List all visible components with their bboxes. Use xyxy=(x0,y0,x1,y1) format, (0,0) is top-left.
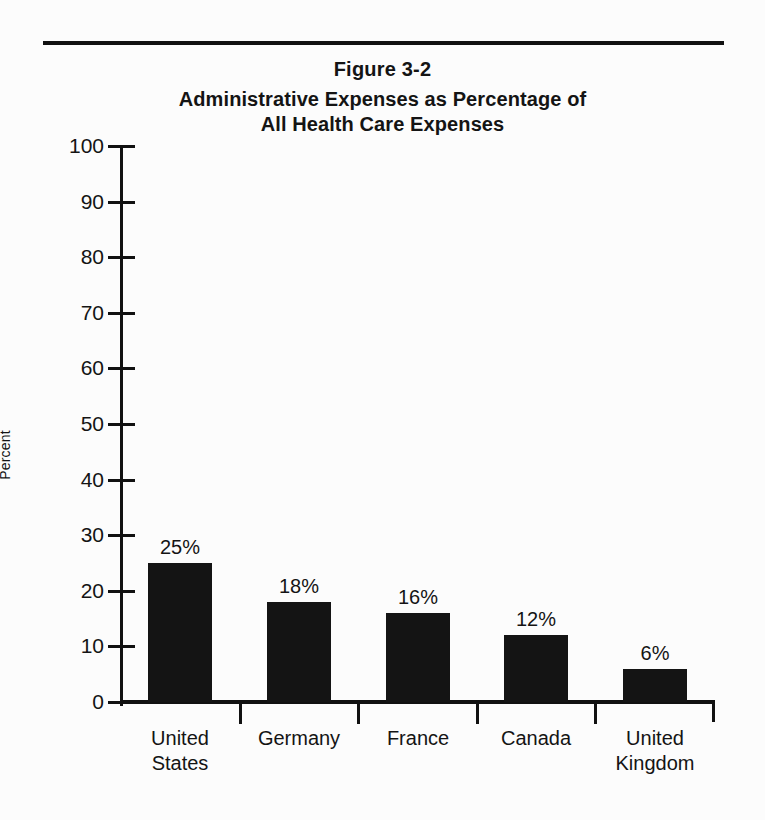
y-axis-tick-label: 10 xyxy=(52,635,104,656)
category-separator xyxy=(594,700,597,724)
category-label-line: United xyxy=(585,726,725,751)
y-axis-tick-label-text: 40 xyxy=(60,469,104,490)
bar xyxy=(623,669,687,702)
y-axis-tick-label-text: 100 xyxy=(60,135,104,156)
y-axis-tick-label: 100 xyxy=(52,135,104,156)
y-axis-tick xyxy=(108,145,135,148)
y-axis-tick-label-text: 70 xyxy=(60,302,104,323)
bar xyxy=(148,563,212,702)
y-axis-tick-label: 0 xyxy=(52,691,104,712)
category-separator xyxy=(476,700,479,724)
y-axis-tick xyxy=(108,201,135,204)
y-axis-tick-label-text: 80 xyxy=(60,246,104,267)
bar-value-label: 16% xyxy=(358,587,478,607)
y-axis-tick-label: 60 xyxy=(52,357,104,378)
y-axis-tick-label: 70 xyxy=(52,302,104,323)
y-axis-tick-label: 40 xyxy=(52,469,104,490)
bar-value-label: 25% xyxy=(120,537,240,557)
y-axis-tick-label-text: 60 xyxy=(60,357,104,378)
category-label-line: States xyxy=(110,751,250,776)
category-separator xyxy=(239,700,242,724)
bar xyxy=(386,613,450,702)
y-axis-tick-label: 20 xyxy=(52,580,104,601)
bar-value-label: 12% xyxy=(476,609,596,629)
y-axis-tick xyxy=(108,312,135,315)
bar xyxy=(267,602,331,702)
y-axis-tick-label: 90 xyxy=(52,191,104,212)
y-axis-tick xyxy=(108,423,135,426)
x-axis-end-cap xyxy=(712,700,715,722)
y-axis-tick-label-text: 90 xyxy=(60,191,104,212)
y-axis-tick-label-text: 10 xyxy=(60,635,104,656)
y-axis-tick xyxy=(108,367,135,370)
bar xyxy=(504,635,568,702)
figure-container: Figure 3-2 Administrative Expenses as Pe… xyxy=(0,0,765,820)
category-separator xyxy=(357,700,360,724)
y-axis-tick-label-text: 30 xyxy=(60,524,104,545)
y-axis-tick xyxy=(108,701,135,704)
y-axis-tick xyxy=(108,256,135,259)
y-axis-tick-label-text: 50 xyxy=(60,413,104,434)
bar-chart-plot: Percent 0102030405060708090100 25%18%16%… xyxy=(0,0,765,820)
y-axis-tick-label: 80 xyxy=(52,246,104,267)
y-axis-tick xyxy=(108,645,135,648)
bar-value-label: 18% xyxy=(239,576,359,596)
y-axis-tick-label: 50 xyxy=(52,413,104,434)
y-axis-tick-label: 30 xyxy=(52,524,104,545)
y-axis-line xyxy=(120,146,123,706)
category-label-line: Kingdom xyxy=(585,751,725,776)
y-axis-title: Percent xyxy=(0,410,12,500)
bar-value-label: 6% xyxy=(595,643,715,663)
y-axis-tick-label-text: 0 xyxy=(60,691,104,712)
category-label: UnitedKingdom xyxy=(585,726,725,776)
y-axis-tick xyxy=(108,590,135,593)
y-axis-tick xyxy=(108,479,135,482)
y-axis-tick-label-text: 20 xyxy=(60,580,104,601)
